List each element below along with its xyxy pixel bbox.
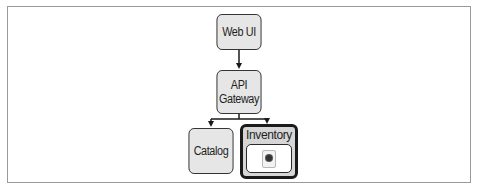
inventory-container [246,144,292,173]
node-catalog: Catalog [189,128,234,174]
node-inventory: Inventory [240,124,298,179]
node-web-ui: Web UI [217,14,262,50]
node-api-gateway: API Gateway [217,70,262,114]
node-label-line1: API [219,78,259,92]
pod-icon [262,150,276,168]
node-label: Web UI [222,25,256,39]
node-label-line2: Gateway [219,92,259,106]
edge-webui-to-gateway [236,50,242,69]
node-label: Inventory [243,128,295,142]
node-label: Catalog [194,144,229,158]
